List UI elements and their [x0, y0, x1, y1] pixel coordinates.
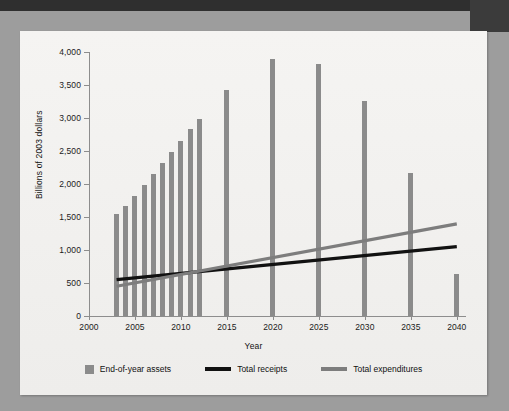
x-axis-line [89, 316, 466, 317]
x-tick-label: 2030 [355, 322, 374, 332]
x-tick-label: 2025 [309, 322, 328, 332]
page-top-right-dark-block [470, 0, 509, 32]
y-tick-label: 500 [67, 278, 81, 288]
legend-swatch-icon-expenditures [321, 367, 347, 371]
y-tick-label: 1,500 [59, 212, 81, 222]
y-tick-label: 2,000 [59, 179, 81, 189]
legend-swatch-icon-assets [85, 365, 94, 374]
legend-swatch-icon-receipts [205, 367, 231, 371]
x-tick-label: 2035 [401, 322, 420, 332]
x-tick-mark [319, 316, 320, 320]
x-tick-label: 2040 [447, 322, 466, 332]
x-tick-mark [365, 316, 366, 320]
y-tick-label: 4,000 [59, 47, 81, 57]
legend-label-assets: End-of-year assets [100, 364, 171, 374]
x-tick-mark [135, 316, 136, 320]
x-axis-title: Year [20, 341, 487, 351]
legend-item-end-of-year-assets: End-of-year assets [85, 364, 171, 374]
chart-legend: End-of-year assets Total receipts Total … [20, 364, 487, 374]
line-series-layer [89, 52, 466, 316]
legend-item-total-receipts: Total receipts [205, 364, 287, 374]
x-tick-mark [457, 316, 458, 320]
y-tick-label: 0 [76, 311, 81, 321]
line-total-receipts [117, 247, 457, 280]
figure-panel-background: Billions of 2003 dollars 05001,0001,5002… [20, 31, 487, 395]
x-tick-label: 2015 [217, 322, 236, 332]
x-tick-label: 2010 [171, 322, 190, 332]
y-tick-label: 3,000 [59, 113, 81, 123]
y-tick-label: 3,500 [59, 80, 81, 90]
plot-area: 05001,0001,5002,0002,5003,0003,5004,000 … [89, 52, 466, 316]
x-tick-mark [181, 316, 182, 320]
x-tick-mark [273, 316, 274, 320]
line-total-expenditures [117, 224, 457, 286]
x-tick-label: 2020 [263, 322, 282, 332]
y-axis-title: Billions of 2003 dollars [34, 110, 44, 199]
x-tick-mark [227, 316, 228, 320]
legend-item-total-expenditures: Total expenditures [321, 364, 422, 374]
x-tick-label: 2000 [79, 322, 98, 332]
y-tick-label: 2,500 [59, 146, 81, 156]
screenshot-page: Billions of 2003 dollars 05001,0001,5002… [0, 0, 509, 411]
legend-label-receipts: Total receipts [237, 364, 287, 374]
legend-label-expenditures: Total expenditures [353, 364, 422, 374]
x-tick-label: 2005 [125, 322, 144, 332]
x-tick-mark [89, 316, 90, 320]
y-tick-label: 1,000 [59, 245, 81, 255]
plot-canvas: 05001,0001,5002,0002,5003,0003,5004,000 … [89, 52, 466, 316]
x-tick-mark [411, 316, 412, 320]
figure-panel: Billions of 2003 dollars 05001,0001,5002… [20, 31, 487, 395]
page-top-dark-band [0, 0, 509, 11]
